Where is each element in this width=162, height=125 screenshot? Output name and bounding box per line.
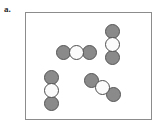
- gray-atom: [105, 50, 120, 65]
- figure-panel: a.: [0, 0, 162, 125]
- gray-atom: [44, 96, 59, 111]
- white-atom: [44, 83, 59, 98]
- white-atom: [95, 80, 110, 95]
- white-atom: [105, 37, 120, 52]
- gray-atom: [82, 45, 97, 60]
- panel-label: a.: [4, 4, 11, 14]
- white-atom: [69, 45, 84, 60]
